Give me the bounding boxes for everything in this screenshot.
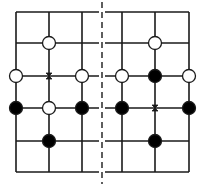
go-diagram xyxy=(0,0,199,186)
black-stone xyxy=(10,102,23,115)
black-stone xyxy=(43,135,56,148)
left-board-grid xyxy=(16,12,99,172)
white-stone xyxy=(43,102,56,115)
black-stone xyxy=(183,102,196,115)
black-stone xyxy=(149,70,162,83)
white-stone xyxy=(149,37,162,50)
black-stone xyxy=(149,135,162,148)
black-stone xyxy=(116,102,129,115)
white-stone xyxy=(43,37,56,50)
right-board-grid xyxy=(105,12,189,172)
white-stone xyxy=(183,70,196,83)
white-stone xyxy=(116,70,129,83)
black-stone xyxy=(76,102,89,115)
white-stone xyxy=(10,70,23,83)
white-stone xyxy=(76,70,89,83)
